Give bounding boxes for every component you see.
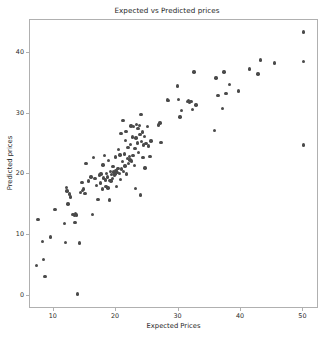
scatter-point — [131, 154, 134, 157]
scatter-point — [80, 181, 83, 184]
scatter-point — [95, 184, 98, 187]
scatter-point — [191, 108, 194, 111]
scatter-point — [78, 241, 81, 244]
scatter-point — [123, 152, 126, 155]
scatter-point — [147, 144, 150, 147]
scatter-point — [83, 192, 86, 195]
scatter-point — [143, 135, 146, 138]
scatter-point — [159, 141, 162, 144]
y-axis-label: Predicted prices — [6, 136, 14, 191]
scatter-point — [146, 125, 149, 128]
x-tick-label: 40 — [236, 312, 244, 320]
scatter-point — [176, 84, 179, 87]
scatter-point — [125, 172, 128, 175]
scatter-point — [123, 164, 126, 167]
scatter-point — [41, 240, 44, 243]
scatter-point — [214, 76, 217, 79]
scatter-point — [259, 58, 262, 61]
scatter-point — [302, 143, 305, 146]
scatter-point — [302, 30, 305, 33]
scatter-point — [42, 258, 45, 261]
scatter-point — [121, 119, 124, 122]
scatter-point — [273, 61, 276, 64]
scatter-point — [104, 178, 107, 181]
scatter-point — [149, 139, 152, 142]
y-tick-label: 10 — [16, 230, 24, 238]
scatter-point — [119, 178, 122, 181]
scatter-point — [117, 148, 120, 151]
scatter-point — [224, 92, 227, 95]
scatter-point — [139, 193, 142, 196]
scatter-point — [92, 156, 95, 159]
scatter-point — [119, 132, 122, 135]
scatter-point — [134, 136, 137, 139]
scatter-point — [248, 67, 251, 70]
chart-title: Expected vs Predicted prices — [0, 6, 334, 15]
scatter-point — [141, 156, 144, 159]
scatter-point — [256, 72, 259, 75]
scatter-point — [139, 113, 142, 116]
scatter-point — [167, 99, 170, 102]
scatter-point — [91, 213, 94, 216]
scatter-chart-figure: Expected vs Predicted prices 010203040 1… — [0, 0, 334, 343]
scatter-point — [101, 163, 104, 166]
scatter-point — [133, 164, 136, 167]
x-tick-label: 50 — [298, 312, 306, 320]
scatter-point — [148, 155, 151, 158]
y-tick-label: 30 — [16, 109, 24, 117]
scatter-point — [106, 186, 109, 189]
scatter-point — [213, 129, 216, 132]
scatter-point — [43, 275, 46, 278]
scatter-point — [66, 202, 69, 205]
x-tick-label: 30 — [173, 312, 181, 320]
scatter-point — [93, 177, 96, 180]
x-tick-mark — [240, 308, 241, 311]
x-axis-label: Expected Prices — [29, 322, 318, 330]
scatter-point — [138, 124, 141, 127]
scatter-point — [216, 94, 219, 97]
scatter-point — [137, 151, 140, 154]
scatter-point — [237, 89, 240, 92]
scatter-point — [136, 141, 139, 144]
scatter-point — [111, 177, 114, 180]
scatter-point — [49, 235, 52, 238]
scatter-point — [63, 222, 66, 225]
scatter-point — [130, 159, 133, 162]
scatter-point — [107, 159, 110, 162]
scatter-point — [121, 160, 124, 163]
scatter-point — [35, 264, 38, 267]
y-tick-label: 0 — [20, 291, 24, 299]
x-tick-mark — [178, 308, 179, 311]
scatter-point — [194, 103, 197, 106]
scatter-point — [124, 130, 127, 133]
scatter-point — [53, 208, 56, 211]
scatter-point — [134, 187, 137, 190]
x-tick-mark — [115, 308, 116, 311]
scatter-points-layer — [30, 20, 317, 307]
scatter-point — [87, 179, 90, 182]
scatter-point — [108, 198, 111, 201]
scatter-point — [118, 172, 121, 175]
scatter-point — [103, 154, 106, 157]
x-tick-mark — [53, 308, 54, 311]
scatter-point — [222, 70, 225, 73]
x-tick-label: 20 — [111, 312, 119, 320]
scatter-point — [69, 195, 72, 198]
scatter-point — [180, 109, 183, 112]
y-tick-label: 40 — [16, 48, 24, 56]
scatter-point — [136, 127, 139, 130]
scatter-point — [73, 221, 76, 224]
scatter-point — [75, 213, 78, 216]
scatter-point — [141, 130, 144, 133]
scatter-point — [115, 185, 118, 188]
plot-area — [29, 19, 318, 308]
scatter-point — [158, 121, 161, 124]
scatter-point — [82, 187, 85, 190]
scatter-point — [192, 70, 195, 73]
scatter-point — [111, 165, 114, 168]
scatter-point — [177, 98, 180, 101]
scatter-point — [118, 153, 121, 156]
scatter-point — [189, 100, 192, 103]
scatter-point — [124, 139, 127, 142]
scatter-point — [84, 162, 87, 165]
